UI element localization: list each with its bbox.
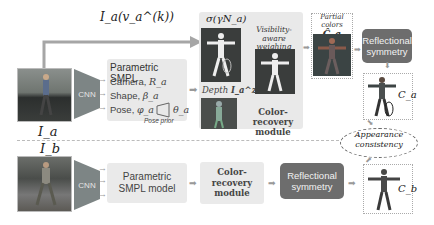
sigma-label: σ(γN_a): [206, 13, 246, 24]
reflectional-symmetry-a: Reflectional symmetry: [362, 29, 412, 63]
smpl-panel-a: Parametric SMPL Camera, R_a Shape, β_a P…: [107, 59, 187, 121]
cnn-arrow-shape: →: [98, 89, 107, 98]
output-c-a-box: C_a: [363, 73, 413, 120]
row-divider: [17, 140, 339, 141]
colored-body-output-a-icon: [368, 76, 402, 118]
input-image-a: [17, 68, 72, 122]
skip-arrow-label: I_a(v_a^(k)): [100, 10, 174, 24]
camera-param: Camera, R_a: [110, 76, 167, 87]
partial-colors-box: Partial colors Ĉ_a: [311, 13, 353, 79]
reflectional-symmetry-b: Reflectional symmetry: [280, 163, 344, 199]
visibility-body-figure-icon: [259, 52, 291, 92]
appearance-consistency-label: Appearance consistency: [340, 130, 418, 150]
cnn-b-arrow-2: →: [98, 176, 107, 185]
symmetry-to-output-arrow-a: ⬇: [384, 62, 391, 70]
normal-map-image: [201, 28, 241, 82]
partial-colors-image: [313, 34, 351, 76]
color-recovery-panel-a: σ(γN_a) Depth I_a^z Visibility-aware wei…: [199, 12, 303, 129]
standing-person-figure-icon: [34, 161, 58, 207]
color-to-symmetry-arrow-b: ➡: [268, 179, 276, 188]
runner-figure-icon: [36, 73, 56, 117]
depth-label: Depth I_a^z: [202, 85, 257, 95]
white-body-figure-icon: [205, 32, 237, 78]
pose-theta: θ_a: [173, 104, 189, 115]
output-c-b-box: C_b: [363, 164, 413, 214]
visibility-weight-image: [255, 49, 295, 94]
input-label-b: I_b: [40, 141, 60, 156]
smpl-model-b: Parametric SMPL model: [107, 163, 187, 203]
input-image-b: [17, 156, 72, 212]
smpl-to-color-arrow-a: ➡: [189, 85, 197, 95]
pose-param: Pose, φ_a: [110, 104, 154, 115]
cnn-arrow-pose: →: [98, 103, 107, 112]
cnn-b-arrow-3: →: [98, 190, 107, 199]
pose-prior-label: Pose prior: [144, 117, 174, 124]
partial-to-symmetry-arrow: ➡: [354, 46, 361, 54]
cnn-label-a: CNN: [74, 90, 100, 99]
output-c-a-label: C_a: [398, 89, 417, 100]
input-label-a: I_a: [38, 124, 57, 139]
color-recovery-module-label-a: Color-recovery module: [244, 107, 302, 138]
color-recovery-module-b: Color-recovery module: [200, 162, 264, 204]
partial-color-body-icon: [316, 37, 348, 75]
depth-body-figure-icon: [211, 100, 227, 128]
smpl-to-color-arrow-b: ➡: [189, 179, 197, 188]
color-to-partial-arrow: ➡: [303, 44, 310, 52]
depth-map-image: [201, 98, 237, 129]
cnn-arrow-camera: →: [98, 75, 107, 84]
pose-prior-trapezoid-icon: [156, 103, 170, 117]
shape-param: Shape, β_a: [110, 90, 159, 101]
symmetry-to-output-arrow-b: ➡: [348, 179, 356, 188]
cnn-b-arrow-1: →: [98, 164, 107, 173]
output-c-b-label: C_b: [398, 183, 417, 194]
colored-body-output-b-icon: [368, 168, 402, 212]
cnn-label-b: CNN: [74, 181, 100, 190]
